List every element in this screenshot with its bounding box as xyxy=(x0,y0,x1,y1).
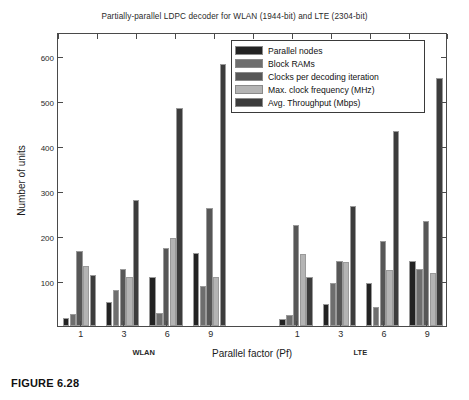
x-tick: 9 xyxy=(426,321,427,326)
bar xyxy=(156,313,162,326)
x-tick-top xyxy=(136,34,137,39)
legend-label: Clocks per decoding iteration xyxy=(268,72,379,82)
x-tick-label: 1 xyxy=(295,329,300,339)
x-tick-label: 6 xyxy=(381,329,386,339)
x-tick: 3 xyxy=(123,321,124,326)
y-tick: 500 xyxy=(58,102,63,103)
x-tick-label: 1 xyxy=(78,329,83,339)
figure-caption: FIGURE 6.28 xyxy=(11,377,79,389)
bar xyxy=(293,225,299,326)
y-tick-label: 300 xyxy=(41,189,54,198)
x-tick-label: 9 xyxy=(425,329,430,339)
bar xyxy=(286,315,292,326)
y-tick: 100 xyxy=(58,282,63,283)
y-axis-label-text: Number of units xyxy=(16,145,27,216)
y-axis-label: Number of units xyxy=(14,33,28,327)
legend-label: Avg. Throughput (Mbps) xyxy=(268,98,360,108)
bar xyxy=(176,108,182,326)
bar xyxy=(106,302,112,326)
bar xyxy=(213,277,219,326)
bar xyxy=(126,277,132,326)
x-tick-label: 3 xyxy=(121,329,126,339)
bar xyxy=(423,221,429,326)
x-tick-top xyxy=(214,34,215,39)
y-tick-right xyxy=(441,192,446,193)
bar xyxy=(366,283,372,326)
x-tick: 6 xyxy=(383,321,384,326)
bar xyxy=(350,206,356,326)
bar xyxy=(220,64,226,326)
y-tick: 600 xyxy=(58,57,63,58)
legend-swatch xyxy=(235,46,263,55)
legend-label: Block RAMs xyxy=(268,59,315,69)
legend-swatch xyxy=(235,72,263,81)
bar xyxy=(76,251,82,326)
legend-item: Clocks per decoding iteration xyxy=(235,70,420,83)
legend-item: Block RAMs xyxy=(235,57,420,70)
y-tick-right xyxy=(441,282,446,283)
y-tick-label: 100 xyxy=(41,279,54,288)
bar xyxy=(386,270,392,326)
legend-label: Max. clock frequency (MHz) xyxy=(268,85,375,95)
bar xyxy=(323,304,329,326)
x-tick-top xyxy=(292,34,293,39)
x-tick: 1 xyxy=(296,321,297,326)
bar xyxy=(279,319,285,326)
y-tick-right xyxy=(441,102,446,103)
group-label-lte: LTE xyxy=(354,348,368,357)
y-tick-right xyxy=(441,237,446,238)
bar xyxy=(416,269,422,327)
x-tick-label: 9 xyxy=(208,329,213,339)
legend-swatch xyxy=(235,59,263,68)
y-tick: 200 xyxy=(58,237,63,238)
x-tick-top xyxy=(331,34,332,39)
x-tick-top xyxy=(58,34,59,39)
bar xyxy=(430,273,436,326)
chart-title: Partially-parallel LDPC decoder for WLAN… xyxy=(0,12,469,21)
bar xyxy=(343,262,349,326)
x-tick-top xyxy=(253,34,254,39)
y-tick-label: 600 xyxy=(41,54,54,63)
figure-6-28: Partially-parallel LDPC decoder for WLAN… xyxy=(0,0,469,400)
y-tick-right xyxy=(441,57,446,58)
x-tick: 1 xyxy=(80,321,81,326)
bar xyxy=(120,269,126,327)
legend-swatch xyxy=(235,85,263,94)
bar xyxy=(300,254,306,326)
bar xyxy=(193,253,199,326)
x-tick: 6 xyxy=(166,321,167,326)
x-tick: 3 xyxy=(340,321,341,326)
chart-legend: Parallel nodesBlock RAMsClocks per decod… xyxy=(231,40,425,113)
y-tick-label: 200 xyxy=(41,234,54,243)
bar xyxy=(163,248,169,326)
bar xyxy=(149,277,155,326)
legend-label: Parallel nodes xyxy=(268,46,322,56)
x-tick-label: 6 xyxy=(165,329,170,339)
bar xyxy=(436,78,442,326)
y-tick-right xyxy=(441,147,446,148)
legend-swatch xyxy=(235,98,263,107)
bar xyxy=(306,277,312,326)
bar xyxy=(200,286,206,326)
bar xyxy=(83,266,89,326)
x-axis-label: Parallel factor (Pf) xyxy=(57,348,447,359)
x-tick-top xyxy=(370,34,371,39)
bar xyxy=(393,131,399,326)
legend-item: Max. clock frequency (MHz) xyxy=(235,83,420,96)
x-tick-top xyxy=(447,34,448,39)
bar xyxy=(409,261,415,326)
bar xyxy=(330,283,336,326)
y-tick-label: 400 xyxy=(41,144,54,153)
x-tick-label: 3 xyxy=(338,329,343,339)
y-tick-label: 500 xyxy=(41,99,54,108)
x-tick: 9 xyxy=(210,321,211,326)
bar xyxy=(336,261,342,326)
group-label-wlan: WLAN xyxy=(132,348,155,357)
x-tick-top xyxy=(97,34,98,39)
bar xyxy=(380,241,386,326)
bar xyxy=(373,307,379,326)
bar xyxy=(206,208,212,326)
x-tick-top xyxy=(175,34,176,39)
bar xyxy=(90,275,96,326)
bar xyxy=(113,290,119,326)
